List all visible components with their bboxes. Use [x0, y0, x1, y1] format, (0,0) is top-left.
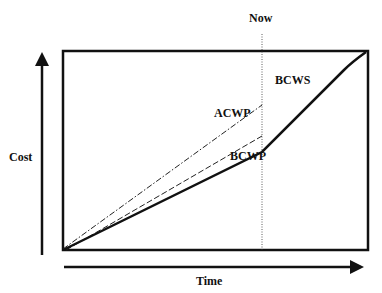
- time-axis-arrow: [64, 260, 364, 274]
- cost-axis-label: Cost: [9, 151, 32, 163]
- earned-value-diagram: [0, 0, 382, 293]
- chart-frame: [63, 51, 368, 250]
- bcwp-label: BCWP: [230, 150, 266, 162]
- acwp-line: [63, 105, 262, 249]
- acwp-label: ACWP: [214, 107, 251, 119]
- cost-axis-arrow: [35, 52, 49, 255]
- time-axis-label: Time: [196, 275, 222, 287]
- now-label: Now: [249, 12, 272, 24]
- bcws-label: BCWS: [275, 74, 310, 86]
- bcws-curve: [63, 52, 366, 250]
